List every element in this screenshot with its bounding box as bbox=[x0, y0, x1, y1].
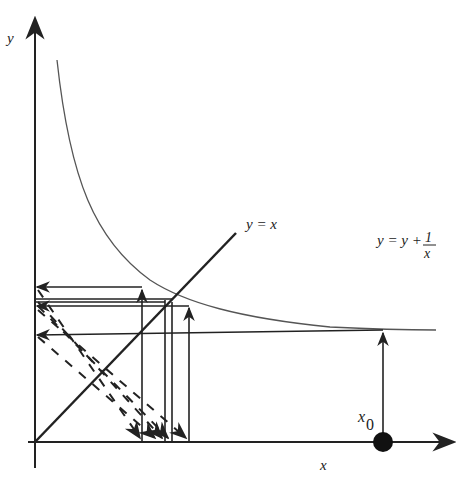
svg-text:1: 1 bbox=[425, 230, 432, 245]
svg-text:y = y +: y = y + bbox=[375, 232, 422, 248]
horizontal-arrows bbox=[35, 287, 383, 335]
start-point-label: x 0 bbox=[357, 408, 374, 433]
vertical-arrows bbox=[142, 290, 383, 442]
start-point-marker bbox=[373, 432, 393, 452]
diagonal-label: y = x bbox=[244, 216, 277, 232]
curve-equation-label: y = y + 1 x bbox=[375, 230, 436, 261]
diagonal-y-equals-x bbox=[35, 233, 236, 442]
y-axis-label: y bbox=[5, 30, 14, 46]
x-axis-label: x bbox=[319, 457, 327, 473]
svg-text:0: 0 bbox=[366, 416, 374, 433]
cobweb-diagram: y x y = x y = y + 1 x x 0 bbox=[0, 0, 469, 483]
svg-text:x: x bbox=[423, 246, 431, 261]
curve-y-plus-one-over-x bbox=[57, 60, 436, 330]
svg-text:x: x bbox=[357, 408, 365, 425]
